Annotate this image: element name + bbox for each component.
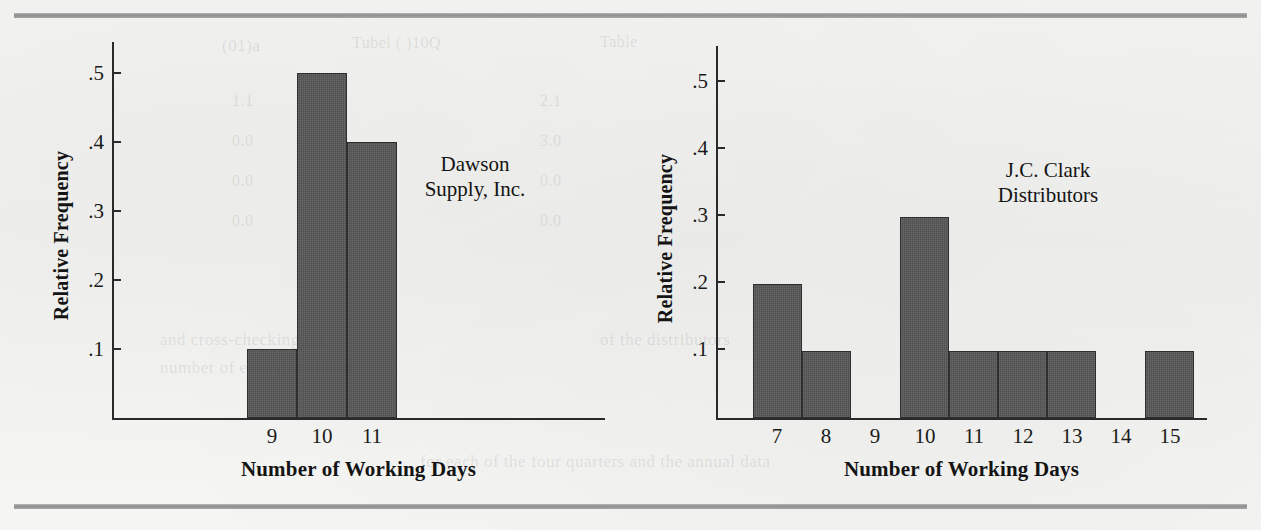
figure-top-rule bbox=[14, 13, 1247, 18]
ghost-fragment: number of each distributor bbox=[160, 358, 354, 378]
ghost-fragment: Table bbox=[600, 33, 638, 51]
ghost-fragment: for each of the four quarters and the an… bbox=[420, 452, 771, 472]
ghost-fragment: (01)a bbox=[222, 36, 260, 56]
ghost-fragment: 3.0 bbox=[540, 132, 562, 150]
ghost-text-layer: (01)a Tubel ( )10Q Table 1.1 0.0 0.0 0.0… bbox=[0, 0, 1261, 530]
ghost-fragment: 2.1 bbox=[540, 92, 562, 110]
ghost-fragment: 0.0 bbox=[232, 212, 254, 230]
ghost-fragment: 0.0 bbox=[232, 172, 254, 190]
ghost-fragment: Tubel ( )10Q bbox=[352, 34, 441, 52]
figure-canvas: (01)a Tubel ( )10Q Table 1.1 0.0 0.0 0.0… bbox=[0, 0, 1261, 530]
ghost-fragment: 0.0 bbox=[540, 172, 562, 190]
ghost-fragment: and cross-checking the bbox=[160, 330, 327, 350]
ghost-fragment: 0.0 bbox=[540, 212, 562, 230]
ghost-fragment: 1.1 bbox=[232, 92, 254, 110]
ghost-fragment: 0.0 bbox=[232, 132, 254, 150]
figure-bottom-rule bbox=[14, 504, 1247, 509]
ghost-fragment: of the distributors bbox=[600, 330, 730, 350]
